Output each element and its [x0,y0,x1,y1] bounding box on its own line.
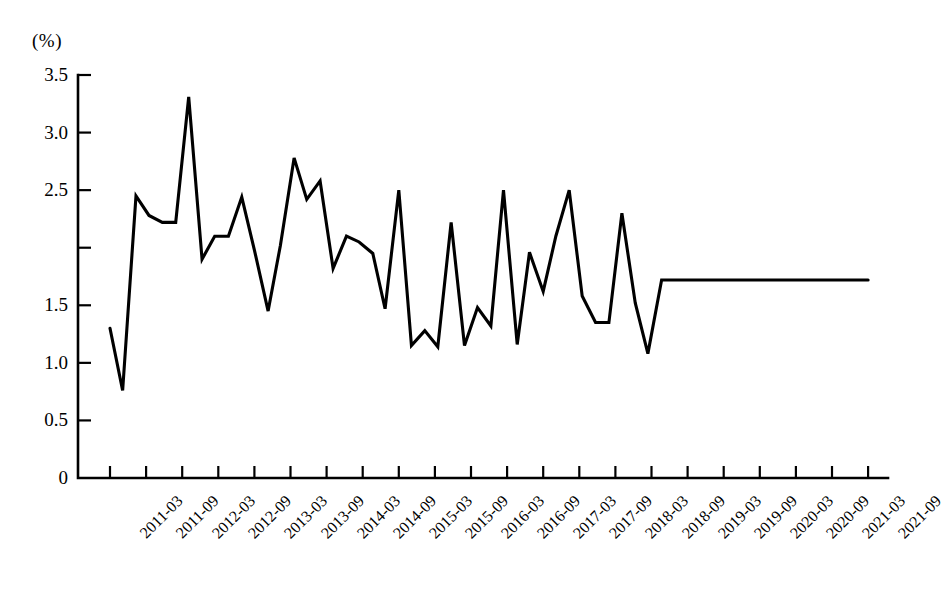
axis-lines [78,75,888,478]
y-tick-label: 0 [22,467,68,489]
tick-mark-group [78,75,868,478]
data-series-line [110,97,868,391]
y-tick-label: 0.5 [22,409,68,431]
y-tick-label: 3.5 [22,64,68,86]
y-tick-label: 3.0 [22,122,68,144]
y-tick-label: 1.0 [22,352,68,374]
y-tick-label: 1.5 [22,294,68,316]
y-tick-label: 2.5 [22,179,68,201]
